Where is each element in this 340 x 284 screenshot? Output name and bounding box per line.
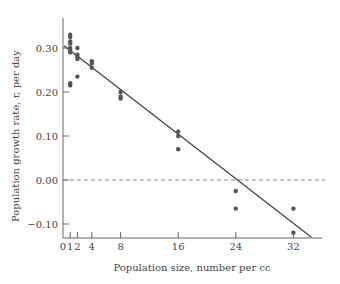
x-tick-label: 0: [60, 241, 66, 252]
y-tick-label: 0.20: [36, 87, 58, 98]
data-points: [68, 33, 296, 235]
y-tick-label: 0.10: [36, 131, 58, 142]
regression-line: [64, 46, 311, 237]
data-point: [234, 206, 238, 210]
y-tick-label: 0.30: [36, 43, 58, 54]
data-point: [75, 57, 79, 61]
y-axis-label: Population growth rate, r, per day: [10, 50, 21, 222]
data-point: [176, 134, 180, 138]
x-tick-label: 32: [287, 241, 300, 252]
x-tick-label: 16: [172, 241, 185, 252]
x-tick-label: 24: [229, 241, 242, 252]
data-point: [68, 50, 72, 54]
data-point: [176, 129, 180, 133]
data-point: [90, 66, 94, 70]
data-point: [90, 61, 94, 65]
x-tick-label: 4: [89, 241, 95, 252]
data-point: [75, 74, 79, 78]
data-point: [291, 231, 295, 235]
data-point: [75, 46, 79, 50]
y-tick-label: −0.10: [27, 219, 58, 230]
data-point: [68, 83, 72, 87]
x-tick-label: 2: [74, 241, 80, 252]
x-axis-label: Population size, number per cc: [113, 262, 271, 273]
data-point: [68, 41, 72, 45]
scatter-chart: 0.300.200.100.00−0.1001248162432 Populat…: [0, 0, 340, 284]
y-tick-label: 0.00: [36, 175, 58, 186]
data-point: [118, 96, 122, 100]
data-point: [234, 189, 238, 193]
data-point: [68, 35, 72, 39]
data-point: [291, 206, 295, 210]
x-tick-label: 8: [117, 241, 123, 252]
data-point: [176, 147, 180, 151]
x-tick-label: 1: [67, 241, 73, 252]
data-point: [118, 90, 122, 94]
